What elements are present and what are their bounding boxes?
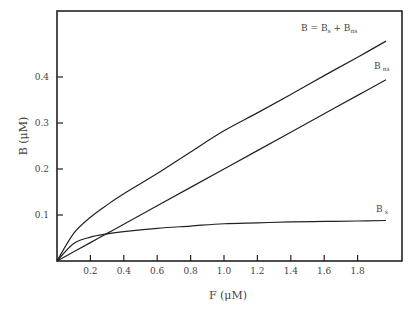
label-total: B = Bs + Bns (301, 23, 357, 34)
y-axis-ticks: 0.10.20.30.4 (35, 72, 63, 220)
curve-2 (57, 221, 386, 261)
y-tick-label: 0.4 (35, 72, 50, 82)
x-tick-label: 1.2 (250, 266, 264, 276)
x-tick-label: 1.4 (284, 266, 299, 276)
x-axis-ticks: 0.20.40.60.81.01.21.41.61.8 (83, 255, 365, 276)
x-tick-label: 1.6 (317, 266, 332, 276)
label-bns: Bns (374, 61, 390, 72)
chart: 0.20.40.60.81.01.21.41.61.8 0.10.20.30.4… (0, 0, 416, 309)
y-tick-label: 0.1 (35, 210, 49, 220)
x-tick-label: 0.2 (83, 266, 97, 276)
label-bs: Bs (376, 204, 388, 215)
y-tick-label: 0.2 (35, 164, 49, 174)
curves (57, 41, 386, 261)
x-tick-label: 1.0 (217, 266, 232, 276)
x-axis-label: F (μM) (209, 289, 247, 302)
x-tick-label: 1.8 (350, 266, 365, 276)
x-tick-label: 0.6 (150, 266, 165, 276)
y-tick-label: 0.3 (35, 118, 50, 128)
x-tick-label: 0.8 (183, 266, 198, 276)
x-tick-label: 0.4 (117, 266, 132, 276)
curve-0 (57, 41, 386, 261)
y-axis-label: B (μM) (17, 117, 30, 156)
